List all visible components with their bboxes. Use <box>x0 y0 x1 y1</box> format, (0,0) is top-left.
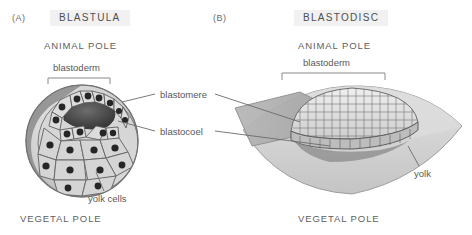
figure-artwork <box>0 0 472 235</box>
leader-blastomere-left <box>122 94 155 102</box>
panel-b-blastoderm-bracket <box>282 73 385 80</box>
blastula-illustration <box>26 85 138 197</box>
panel-a-blastoderm-bracket <box>48 78 110 84</box>
embryo-comparison-figure: (A) BLASTULA ANIMAL POLE blastoderm yolk… <box>0 0 472 235</box>
blastodisc-illustration <box>235 86 462 194</box>
